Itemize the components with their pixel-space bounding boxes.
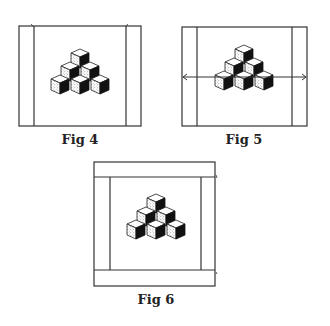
figure-5 <box>182 27 307 126</box>
fig-5-label: Fig 5 <box>214 132 274 147</box>
diagram-canvas <box>0 0 330 326</box>
fig-6-label: Fig 6 <box>126 292 186 307</box>
figure-4 <box>19 24 141 126</box>
cube-pyramid <box>51 49 109 94</box>
figure-6 <box>94 162 217 286</box>
fig-4-label: Fig 4 <box>50 132 110 147</box>
cube-pyramid <box>127 194 185 239</box>
cube-pyramid <box>215 45 273 90</box>
